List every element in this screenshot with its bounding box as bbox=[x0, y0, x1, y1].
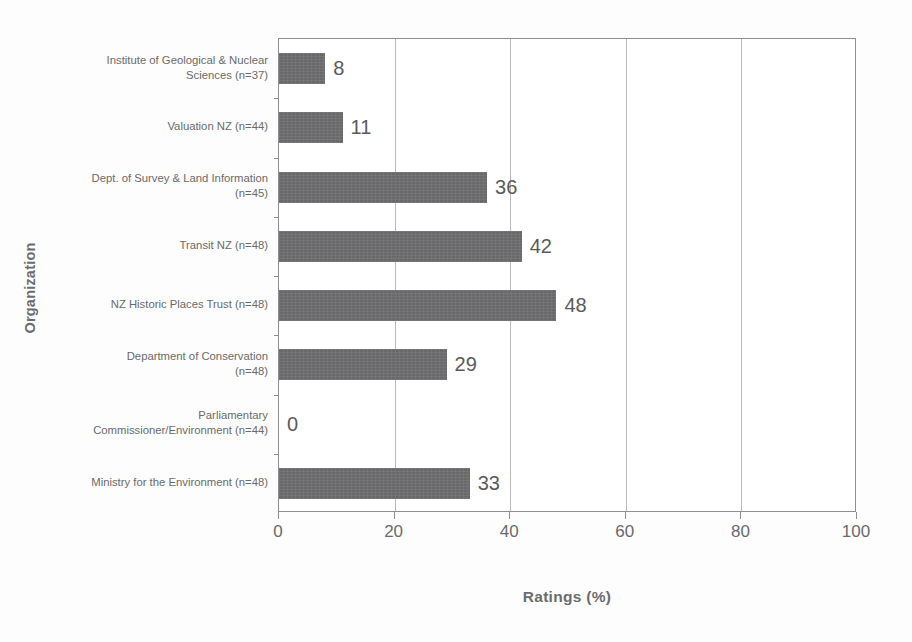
bar-scan-noise bbox=[279, 231, 522, 262]
y-axis-tick bbox=[274, 217, 279, 218]
x-axis-tick bbox=[856, 512, 857, 519]
bar-value-label: 36 bbox=[495, 172, 517, 203]
category-label-line: Parliamentary bbox=[66, 408, 268, 423]
bar-row: 33 bbox=[279, 454, 855, 513]
x-axis-tick bbox=[625, 512, 626, 519]
y-axis-tick bbox=[274, 454, 279, 455]
y-axis-category-label: Institute of Geological & NuclearScience… bbox=[66, 53, 268, 83]
bar-value-label: 33 bbox=[478, 468, 500, 499]
bar[interactable] bbox=[279, 468, 470, 499]
bar-value-label: 8 bbox=[333, 53, 344, 84]
category-label-line: (n=45) bbox=[66, 186, 268, 201]
bar-scan-noise bbox=[279, 290, 556, 321]
y-axis-category-label: Department of Conservation(n=48) bbox=[66, 349, 268, 379]
category-label-line: Ministry for the Environment (n=48) bbox=[66, 475, 268, 490]
y-axis-category-label: NZ Historic Places Trust (n=48) bbox=[66, 297, 268, 312]
category-label-line: Institute of Geological & Nuclear bbox=[66, 53, 268, 68]
y-axis-tick bbox=[274, 276, 279, 277]
bar-scan-noise bbox=[279, 172, 487, 203]
bar-value-label: 48 bbox=[564, 290, 586, 321]
y-axis-category-label: Ministry for the Environment (n=48) bbox=[66, 475, 268, 490]
y-axis-tick bbox=[274, 158, 279, 159]
y-axis-tick bbox=[274, 98, 279, 99]
y-axis-title: Organization bbox=[22, 218, 38, 358]
x-axis: 020406080100 bbox=[278, 512, 856, 552]
y-axis-tick bbox=[274, 335, 279, 336]
x-axis-tick-label: 0 bbox=[273, 522, 282, 542]
y-axis-tick bbox=[274, 395, 279, 396]
x-axis-tick-label: 60 bbox=[615, 522, 634, 542]
category-label-line: Valuation NZ (n=44) bbox=[66, 119, 268, 134]
bar[interactable] bbox=[279, 231, 522, 262]
x-axis-tick-label: 80 bbox=[731, 522, 750, 542]
bar[interactable] bbox=[279, 53, 325, 84]
category-label-line: Transit NZ (n=48) bbox=[66, 238, 268, 253]
category-label-line: Commissioner/Environment (n=44) bbox=[66, 423, 268, 438]
x-axis-tick-label: 100 bbox=[842, 522, 870, 542]
bar-row: 48 bbox=[279, 276, 855, 335]
plot-area: 81136424829033 bbox=[278, 38, 856, 512]
x-axis-tick-label: 40 bbox=[500, 522, 519, 542]
y-axis-category-label: Dept. of Survey & Land Information(n=45) bbox=[66, 171, 268, 201]
bar-scan-noise bbox=[279, 349, 447, 380]
bar-scan-noise bbox=[279, 53, 325, 84]
bar-row: 8 bbox=[279, 39, 855, 98]
x-axis-tick-label: 20 bbox=[384, 522, 403, 542]
bar-row: 42 bbox=[279, 217, 855, 276]
bar-scan-noise bbox=[279, 112, 343, 143]
bar-scan-noise bbox=[279, 468, 470, 499]
bar-value-label: 11 bbox=[351, 112, 372, 143]
bar-row: 11 bbox=[279, 98, 855, 157]
y-axis-category-label: Transit NZ (n=48) bbox=[66, 238, 268, 253]
y-axis-category-label: Valuation NZ (n=44) bbox=[66, 119, 268, 134]
bar-row: 36 bbox=[279, 158, 855, 217]
bar-row: 0 bbox=[279, 395, 855, 454]
x-axis-tick bbox=[278, 512, 279, 519]
y-axis-category-label: ParliamentaryCommissioner/Environment (n… bbox=[66, 408, 268, 438]
bar[interactable] bbox=[279, 112, 343, 143]
category-label-line: Department of Conservation bbox=[66, 349, 268, 364]
category-label-line: (n=48) bbox=[66, 364, 268, 379]
bar-chart: printed on the the and pasi the Organiza… bbox=[0, 0, 912, 642]
category-label-line: NZ Historic Places Trust (n=48) bbox=[66, 297, 268, 312]
bar-value-label: 29 bbox=[455, 349, 477, 380]
bar-value-label: 0 bbox=[287, 409, 298, 440]
x-axis-tick bbox=[509, 512, 510, 519]
bar-row: 29 bbox=[279, 335, 855, 394]
bar[interactable] bbox=[279, 349, 447, 380]
bar[interactable] bbox=[279, 290, 556, 321]
category-label-line: Dept. of Survey & Land Information bbox=[66, 171, 268, 186]
category-label-line: Sciences (n=37) bbox=[66, 68, 268, 83]
x-axis-tick bbox=[394, 512, 395, 519]
bar[interactable] bbox=[279, 172, 487, 203]
x-axis-tick bbox=[740, 512, 741, 519]
bar-value-label: 42 bbox=[530, 231, 552, 262]
x-axis-title: Ratings (%) bbox=[278, 588, 856, 606]
